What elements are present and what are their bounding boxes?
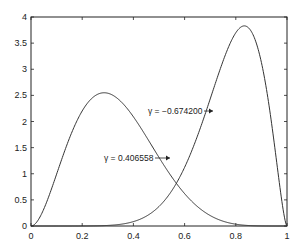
y-tick-label: 0 (22, 221, 27, 231)
y-tick-label: 1.5 (14, 143, 27, 153)
x-tick-label: 0 (28, 231, 33, 241)
y-tick-label: 3 (22, 64, 27, 74)
annotation-label: γ = −0.674200 (148, 106, 203, 116)
x-tick-label: 0.8 (230, 231, 243, 241)
annotation-label: γ = 0.406558 (104, 153, 154, 163)
y-tick-label: 3.5 (14, 38, 27, 48)
y-tick-label: 2.5 (14, 90, 27, 100)
density-chart: 00.20.40.60.81 00.511.522.533.54 γ = 0.4… (0, 0, 305, 250)
x-tick-label: 1 (284, 231, 289, 241)
x-tick-label: 0.4 (127, 231, 140, 241)
y-tick-label: 2 (22, 117, 27, 127)
x-tick-label: 0.6 (178, 231, 191, 241)
y-tick-label: 4 (22, 12, 27, 22)
plot-area (31, 17, 287, 226)
x-tick-label: 0.2 (76, 231, 89, 241)
y-tick-label: 0.5 (14, 195, 27, 205)
y-tick-label: 1 (22, 169, 27, 179)
